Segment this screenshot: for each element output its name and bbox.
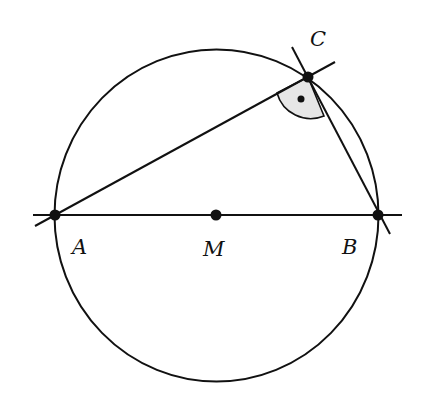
thales-diagram: A M B C (0, 0, 422, 401)
line-AC (35, 62, 335, 226)
label-A: A (70, 235, 87, 259)
point-B (373, 210, 384, 221)
point-M (211, 210, 222, 221)
label-M: M (202, 237, 225, 261)
label-C: C (310, 27, 326, 51)
label-B: B (341, 235, 357, 259)
point-A (50, 210, 61, 221)
right-angle-dot (298, 96, 305, 103)
point-C (303, 72, 314, 83)
